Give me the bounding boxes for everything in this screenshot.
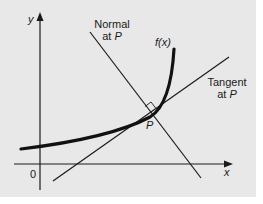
tangent-label-point: P bbox=[229, 88, 236, 100]
right-angle-marker bbox=[145, 102, 156, 109]
normal-label-line1: Normal bbox=[90, 18, 134, 30]
y-axis-arrow-icon bbox=[37, 12, 44, 21]
tangent-label: Tangent at P bbox=[202, 76, 252, 100]
curve-label: f(x) bbox=[155, 36, 171, 48]
normal-label-line2: at P bbox=[90, 30, 134, 42]
curve-fx bbox=[21, 49, 174, 149]
tangent-label-line1: Tangent bbox=[202, 76, 252, 88]
tangent-label-line2: at P bbox=[202, 88, 252, 100]
x-axis bbox=[14, 161, 233, 168]
normal-line bbox=[90, 32, 201, 178]
y-axis bbox=[37, 12, 44, 190]
y-axis-label: y bbox=[28, 13, 34, 25]
origin-label: 0 bbox=[30, 168, 36, 180]
normal-label-point: P bbox=[114, 30, 121, 42]
tangent-label-prefix: at bbox=[217, 88, 229, 100]
x-axis-label: x bbox=[224, 166, 230, 178]
normal-label: Normal at P bbox=[90, 18, 134, 42]
point-p-label: P bbox=[146, 119, 153, 131]
normal-label-prefix: at bbox=[102, 30, 114, 42]
